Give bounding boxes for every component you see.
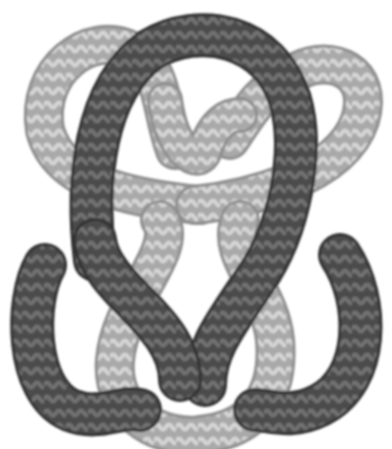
knot-illustration	[0, 0, 392, 449]
knot-drawing	[0, 0, 392, 449]
